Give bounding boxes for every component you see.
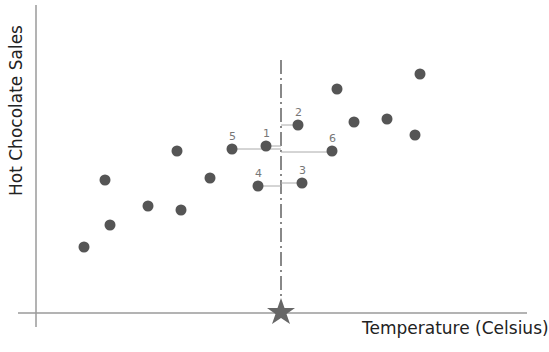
data-point — [253, 181, 264, 192]
data-point — [261, 141, 272, 152]
data-point — [327, 146, 338, 157]
data-point — [293, 120, 304, 131]
x-axis-label: Temperature (Celsius) — [362, 318, 549, 338]
data-point — [415, 69, 426, 80]
data-point — [143, 201, 154, 212]
star-icon — [267, 298, 295, 324]
y-axis-label: Hot Chocolate Sales — [6, 36, 30, 196]
data-point — [79, 242, 90, 253]
neighbor-label: 3 — [299, 164, 306, 177]
data-point — [297, 178, 308, 189]
data-point — [349, 117, 360, 128]
data-points — [79, 69, 426, 253]
data-point — [227, 144, 238, 155]
neighbor-label: 1 — [263, 127, 270, 140]
data-point — [172, 146, 183, 157]
data-point — [105, 220, 116, 231]
neighbor-label: 5 — [229, 130, 236, 143]
data-point — [382, 114, 393, 125]
data-point — [205, 173, 216, 184]
data-point — [100, 175, 111, 186]
neighbor-labels: 512436 — [229, 106, 336, 180]
neighbor-label: 4 — [255, 167, 262, 180]
data-point — [410, 130, 421, 141]
neighbor-label: 6 — [329, 132, 336, 145]
data-point — [176, 205, 187, 216]
neighbor-label: 2 — [295, 106, 302, 119]
data-point — [332, 84, 343, 95]
